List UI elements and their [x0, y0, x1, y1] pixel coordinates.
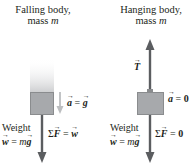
acceleration-arrow-left — [57, 92, 64, 114]
motion-blur-trail — [30, 58, 54, 92]
weight-g: g — [135, 137, 140, 147]
acceleration-label-left: a = g — [67, 98, 88, 108]
mass-symbol: m — [51, 15, 59, 26]
hanging-block — [137, 92, 164, 115]
hanging-body-title: Hanging body, mass m — [113, 4, 189, 26]
falling-body-title-line1: Falling body, — [8, 4, 78, 15]
weight-eq: = — [9, 136, 20, 147]
weight-coef: m — [19, 136, 26, 147]
force-eq: = — [168, 128, 179, 139]
force-value: w — [71, 129, 78, 139]
force-value: 0 — [178, 128, 183, 139]
weight-vector: w — [2, 137, 9, 147]
hanging-body-title-line2: mass m — [113, 15, 189, 26]
tension-vector: T — [134, 62, 140, 72]
falling-body-title: Falling body, mass m — [8, 4, 78, 26]
accel-vector: a — [168, 94, 173, 104]
weight-equation-right: w = mg — [110, 137, 140, 147]
accel-vector: a — [67, 98, 72, 108]
weight-coef: m — [127, 136, 134, 147]
force-vector: F — [54, 129, 61, 139]
acceleration-label-right: a = 0 — [168, 94, 189, 104]
falling-block — [30, 92, 54, 115]
weight-eq: = — [117, 136, 128, 147]
falling-body-title-line2: mass m — [8, 15, 78, 26]
force-vector: F — [161, 129, 168, 139]
net-force-label-left: ΣF = w — [48, 129, 78, 139]
tension-arrow — [146, 39, 155, 93]
mass-prefix: mass — [135, 15, 159, 26]
hanging-body-title-line1: Hanging body, — [113, 4, 189, 15]
net-force-label-right: ΣF = 0 — [155, 129, 183, 139]
weight-g: g — [27, 137, 32, 147]
weight-arrow-right — [146, 115, 155, 163]
mass-prefix: mass — [27, 15, 51, 26]
tension-label: T — [134, 62, 140, 72]
force-eq: = — [61, 128, 72, 139]
weight-equation-left: w = mg — [2, 137, 32, 147]
accel-value: g — [83, 98, 88, 108]
mass-symbol: m — [159, 15, 167, 26]
weight-arrow-left — [38, 115, 47, 163]
accel-value: 0 — [184, 93, 189, 104]
weight-vector: w — [110, 137, 117, 147]
